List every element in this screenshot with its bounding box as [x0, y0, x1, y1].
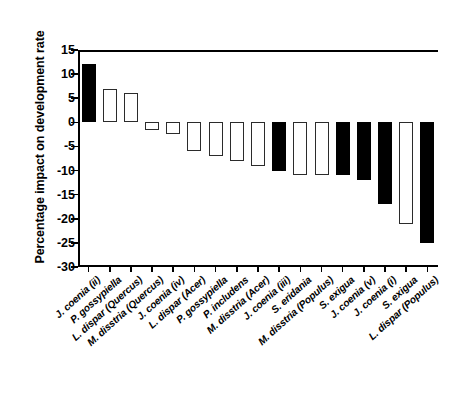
bar — [124, 93, 138, 122]
bar — [272, 122, 286, 170]
x-tick-mark — [278, 265, 280, 272]
x-tick-mark — [151, 265, 153, 272]
x-tick-mark — [109, 265, 111, 272]
y-tick-label: 0 — [68, 115, 75, 129]
x-tick-mark — [427, 265, 429, 272]
x-tick-mark — [257, 265, 259, 272]
x-tick-label: L. dispar (Populus) — [367, 274, 441, 342]
x-tick-label: P. gossypiella — [68, 274, 123, 325]
bar — [145, 122, 159, 129]
x-tick-label: S. eridania — [269, 274, 313, 316]
x-tick-mark — [88, 265, 90, 272]
y-tick-label: -25 — [57, 236, 75, 250]
zero-baseline — [78, 50, 438, 52]
x-tick-mark — [300, 265, 302, 272]
y-tick-label: -5 — [64, 139, 75, 153]
x-tick-mark — [321, 265, 323, 272]
x-tick-label: S. exigua — [316, 274, 356, 311]
bar — [293, 122, 307, 175]
bar — [209, 122, 223, 156]
bar — [103, 89, 117, 123]
x-tick-label: J. coenia (v) — [328, 274, 378, 320]
bar — [315, 122, 329, 175]
bar — [230, 122, 244, 161]
x-tick-mark — [363, 265, 365, 272]
x-tick-mark — [130, 265, 132, 272]
bar — [420, 122, 434, 243]
x-tick-label: L. dispar (Acer) — [147, 274, 208, 331]
x-tick-label: J. coenia (ii) — [52, 274, 102, 320]
x-tick-mark — [384, 265, 386, 272]
x-tick-label: S. exigua — [380, 274, 420, 311]
y-tick-label: 5 — [68, 91, 75, 105]
bar — [336, 122, 350, 175]
bar — [357, 122, 371, 180]
x-tick-mark — [215, 265, 217, 272]
x-tick-mark — [405, 265, 407, 272]
plot-area: 151050-5-10-15-20-25-30 — [78, 50, 438, 267]
x-tick-mark — [194, 265, 196, 272]
bar — [399, 122, 413, 223]
bar — [166, 122, 180, 134]
x-tick-mark — [172, 265, 174, 272]
x-tick-label: J. coenia (i) — [351, 274, 399, 318]
x-tick-label: J. coenia (iii) — [241, 274, 293, 322]
x-tick-label: L. dispar (Quercus) — [70, 274, 145, 343]
x-tick-label: P. gossypiella — [174, 274, 229, 325]
x-tick-mark — [342, 265, 344, 272]
y-tick-label: 15 — [61, 43, 75, 57]
bar — [251, 122, 265, 165]
x-tick-mark — [236, 265, 238, 272]
bar — [82, 64, 96, 122]
y-axis-title: Percentage impact on development rate — [33, 0, 47, 297]
x-tick-label: P. includens — [201, 274, 251, 320]
chart-figure: Percentage impact on development rate 15… — [0, 0, 453, 403]
bar — [378, 122, 392, 204]
x-tick-label: M. disstria (Acer) — [205, 274, 272, 336]
y-tick-label: -30 — [57, 260, 75, 274]
y-tick-label: 10 — [61, 67, 75, 81]
x-tick-label: M. disstria (Quercus) — [85, 274, 165, 348]
y-tick-label: -10 — [57, 164, 75, 178]
y-axis-line — [78, 50, 80, 267]
bar — [187, 122, 201, 151]
x-tick-label: M. disstria (Populus) — [255, 274, 334, 347]
y-tick-label: -15 — [57, 188, 75, 202]
x-tick-label: J. coenia (iv) — [135, 274, 187, 322]
y-tick-label: -20 — [57, 212, 75, 226]
